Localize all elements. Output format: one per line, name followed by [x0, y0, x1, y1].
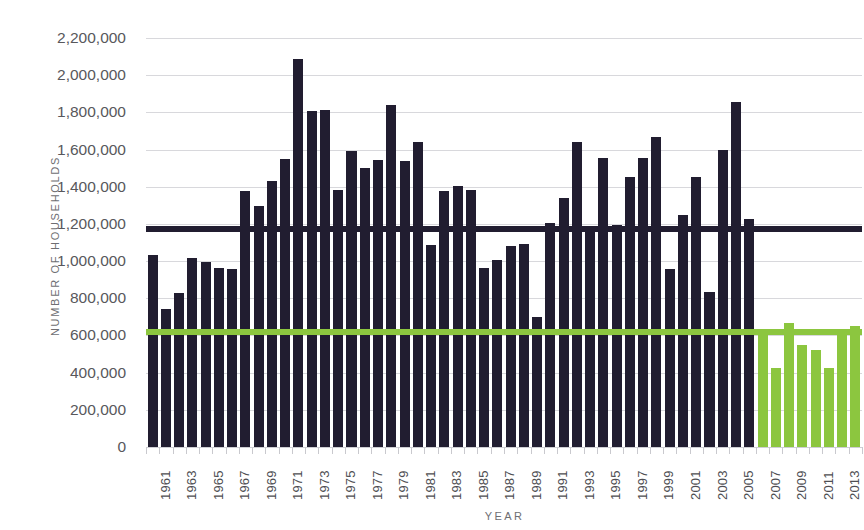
bar [811, 350, 821, 447]
bar [612, 225, 622, 447]
x-tickmark [491, 447, 492, 454]
x-tickmark [822, 447, 823, 454]
bar [850, 326, 860, 447]
x-tickmark [265, 447, 266, 454]
x-tickmark [835, 447, 836, 454]
x-tick-label: 1967 [237, 470, 252, 500]
x-tick-label: 1995 [608, 470, 623, 500]
x-tick-label: 2009 [794, 470, 809, 500]
x-tickmark [292, 447, 293, 454]
x-tickmark [146, 447, 147, 454]
x-tickmark [690, 447, 691, 454]
x-tickmark [743, 447, 744, 454]
x-tick-label: 1977 [370, 470, 385, 500]
x-tick-label: 2013 [847, 470, 862, 500]
x-tickmark [663, 447, 664, 454]
x-tickmark [199, 447, 200, 454]
y-tick-label: 1,200,000 [57, 215, 126, 233]
bar [293, 59, 303, 447]
bar [227, 269, 237, 447]
x-tickmark [597, 447, 598, 454]
x-tickmark [239, 447, 240, 454]
bar [373, 160, 383, 447]
x-axis-title: YEAR [146, 510, 863, 522]
x-tick-label: 2011 [821, 471, 836, 500]
bar [201, 262, 211, 447]
x-axis-tickmarks [146, 447, 862, 454]
bar [691, 177, 701, 447]
x-tick-label: 1983 [449, 470, 464, 500]
x-tickmark [623, 447, 624, 454]
dark-average-line [146, 226, 862, 232]
x-tickmark [729, 447, 730, 454]
x-tick-label: 2001 [688, 470, 703, 500]
x-tick-label: 1963 [184, 470, 199, 500]
bar [148, 255, 158, 447]
y-tick-label: 2,000,000 [57, 66, 126, 84]
x-tickmark [451, 447, 452, 454]
bar [214, 268, 224, 447]
x-tick-label: 1985 [476, 470, 491, 500]
bar [400, 161, 410, 447]
x-tickmark [796, 447, 797, 454]
x-tick-label: 2005 [741, 470, 756, 500]
bar [731, 102, 741, 447]
y-tick-label: 1,000,000 [57, 252, 126, 270]
bar [532, 317, 542, 447]
y-tick-label: 800,000 [70, 289, 126, 307]
x-tickmark [477, 447, 478, 454]
x-tickmark [676, 447, 677, 454]
x-tickmark [517, 447, 518, 454]
x-tick-label: 2003 [715, 470, 730, 500]
x-tick-label: 1975 [343, 470, 358, 500]
x-tickmark [504, 447, 505, 454]
y-tick-label: 1,400,000 [57, 178, 126, 196]
x-tickmark [610, 447, 611, 454]
x-tick-label: 1991 [555, 470, 570, 500]
bar [704, 292, 714, 447]
y-tick-label: 0 [117, 438, 126, 456]
bar [506, 246, 516, 447]
x-tickmark [345, 447, 346, 454]
x-tickmark [849, 447, 850, 454]
bar [837, 331, 847, 447]
x-tick-label: 1965 [211, 470, 226, 500]
bar [254, 206, 264, 447]
x-tickmark [531, 447, 532, 454]
x-tickmark [212, 447, 213, 454]
bar [797, 345, 807, 447]
y-tick-label: 1,800,000 [57, 103, 126, 121]
bar [572, 142, 582, 447]
bar [187, 258, 197, 447]
y-tick-label: 200,000 [70, 401, 126, 419]
x-tickmark [411, 447, 412, 454]
x-tickmark [584, 447, 585, 454]
green-average-line [146, 329, 862, 335]
bar-series [146, 38, 862, 447]
x-tickmark [332, 447, 333, 454]
bar [174, 293, 184, 447]
y-axis-tick-labels: 2,200,0002,000,0001,800,0001,600,0001,40… [0, 0, 136, 460]
x-tick-label: 2007 [768, 470, 783, 500]
x-tick-label: 1961 [158, 470, 173, 500]
bar [824, 368, 834, 447]
y-tick-label: 400,000 [70, 364, 126, 382]
x-tickmark [385, 447, 386, 454]
x-tick-label: 1997 [635, 470, 650, 500]
x-tickmark [809, 447, 810, 454]
x-tickmark [637, 447, 638, 454]
bar [585, 226, 595, 447]
x-tick-label: 1999 [661, 470, 676, 500]
y-tick-label: 2,200,000 [57, 29, 126, 47]
bar [758, 335, 768, 447]
x-tickmark [398, 447, 399, 454]
x-tick-label: 1979 [396, 470, 411, 500]
bar [545, 223, 555, 447]
bar [665, 269, 675, 447]
x-tick-label: 1969 [264, 470, 279, 500]
bar [426, 245, 436, 447]
bar [320, 110, 330, 447]
x-tickmark [424, 447, 425, 454]
x-tickmark [570, 447, 571, 454]
x-axis-tick-labels: 1961196319651967196919711973197519771979… [146, 455, 862, 503]
